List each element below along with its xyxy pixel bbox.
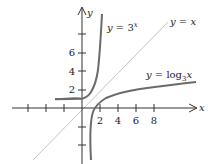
y-axis-label: y (86, 7, 93, 18)
x-axis-label: x (199, 102, 205, 113)
log-curve (90, 82, 196, 160)
x-tick-6: 6 (133, 115, 139, 126)
x-tick-8: 8 (151, 115, 157, 126)
y-tick-4: 4 (69, 66, 75, 77)
y-tick-2: 2 (69, 84, 75, 95)
function-graph: 2 4 6 8 x 6 4 2 y y = 3x y = x y = log3x (0, 0, 208, 164)
x-tick-2: 2 (97, 115, 103, 126)
identity-line-label: y = x (169, 16, 196, 27)
y-tick-6: 6 (69, 47, 75, 58)
log-curve-label: y = log3x (145, 69, 192, 83)
x-axis: 2 4 6 8 x (12, 102, 205, 126)
x-tick-4: 4 (115, 115, 121, 126)
exp-curve-label: y = 3x (106, 21, 138, 33)
exp-curve (55, 14, 102, 99)
